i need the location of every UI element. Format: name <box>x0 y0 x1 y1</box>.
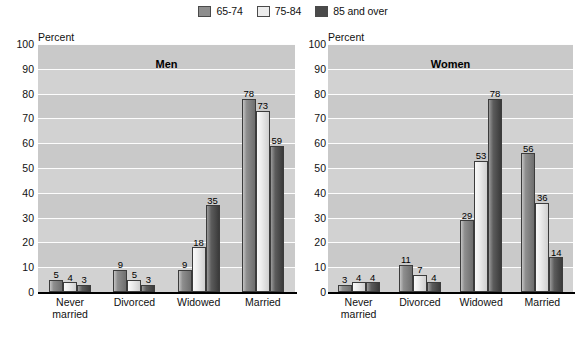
y-axis-tick: 70 <box>22 113 34 124</box>
y-axis-tick: 0 <box>320 287 326 298</box>
bar-value-label: 35 <box>207 196 218 206</box>
y-axis-tick: 60 <box>22 138 34 149</box>
bar[interactable]: 14 <box>549 257 563 292</box>
y-axis-tick: 30 <box>314 212 326 223</box>
bar[interactable]: 35 <box>206 205 220 292</box>
bar-value-label: 73 <box>258 101 269 111</box>
bar-value-label: 9 <box>118 260 123 270</box>
x-axis-category-label-line1: Widowed <box>167 296 231 308</box>
bar[interactable]: 4 <box>427 282 441 292</box>
legend-label-65-74: 65-74 <box>216 5 242 17</box>
y-axis-tick: 30 <box>22 212 34 223</box>
legend-swatch-75-84-icon <box>257 6 270 17</box>
bar-group: 1174 <box>389 44 450 292</box>
legend-item-65-74: 65-74 <box>198 5 242 17</box>
y-axis-tick: 10 <box>314 262 326 273</box>
bar[interactable]: 9 <box>178 270 192 292</box>
y-axis-tick: 50 <box>22 163 34 174</box>
bar-set: 1174 <box>389 44 450 292</box>
x-axis-line-men <box>38 292 297 294</box>
bar-group: 91835 <box>167 44 231 292</box>
x-axis-category-label-line2: married <box>328 308 389 320</box>
bar-value-label: 9 <box>182 260 187 270</box>
x-axis-category-label-line1: Married <box>231 296 295 308</box>
x-axis-category-label-line2: married <box>38 308 102 320</box>
bar-value-label: 7 <box>417 265 422 275</box>
x-axis-labels-men: NevermarriedDivorcedWidowedMarried <box>38 296 295 320</box>
bar-value-label: 5 <box>132 270 137 280</box>
plot-area-men: Men 54395391835787359 <box>38 44 295 292</box>
bar[interactable]: 59 <box>270 146 284 292</box>
legend-label-85-and-over: 85 and over <box>333 5 387 17</box>
panel-title-men: Men <box>38 58 295 70</box>
bar-value-label: 29 <box>462 211 473 221</box>
y-axis-tick: 80 <box>22 88 34 99</box>
x-axis-category-label: Nevermarried <box>328 296 389 320</box>
x-axis-category-label: Married <box>512 296 573 320</box>
x-axis-category-label-line1: Never <box>38 296 102 308</box>
bar-value-label: 4 <box>431 273 436 283</box>
y-axis-tick: 90 <box>314 64 326 75</box>
bar[interactable]: 4 <box>352 282 366 292</box>
bar-group: 344 <box>328 44 389 292</box>
bar[interactable]: 78 <box>488 99 502 292</box>
bar-value-label: 36 <box>537 193 548 203</box>
bar-set: 91835 <box>167 44 231 292</box>
bar[interactable]: 7 <box>413 275 427 292</box>
bar-set: 543 <box>38 44 102 292</box>
y-axis-tick: 20 <box>314 237 326 248</box>
y-axis-men: 1009080706050403020100 <box>8 44 34 292</box>
plot-wrap-women: 1009080706050403020100 Women 34411742953… <box>300 44 582 334</box>
y-axis-tick: 100 <box>308 39 326 50</box>
legend-label-75-84: 75-84 <box>275 5 301 17</box>
chart-panel-men: Percent 1009080706050403020100 Men 54395… <box>6 28 298 334</box>
chart-panel-women: Percent 1009080706050403020100 Women 344… <box>300 28 582 334</box>
bar-group: 787359 <box>231 44 295 292</box>
bar-value-label: 3 <box>146 275 151 285</box>
y-axis-tick: 70 <box>314 113 326 124</box>
bar-value-label: 11 <box>401 255 411 265</box>
bar[interactable]: 56 <box>521 153 535 292</box>
bar[interactable]: 3 <box>77 285 91 292</box>
bar[interactable]: 3 <box>338 285 352 292</box>
bar-set: 295378 <box>451 44 512 292</box>
bar[interactable]: 73 <box>256 111 270 292</box>
bar[interactable]: 5 <box>49 280 63 292</box>
x-axis-category-label: Widowed <box>167 296 231 320</box>
bar-set: 953 <box>102 44 166 292</box>
bar-value-label: 4 <box>356 273 361 283</box>
bar[interactable]: 36 <box>535 203 549 292</box>
bar-value-label: 56 <box>523 144 534 154</box>
bar-value-label: 18 <box>193 238 204 248</box>
bar[interactable]: 3 <box>141 285 155 292</box>
x-axis-category-label-line1: Never <box>328 296 389 308</box>
bar-value-label: 78 <box>244 89 255 99</box>
bar-value-label: 5 <box>53 270 58 280</box>
bar[interactable]: 18 <box>192 247 206 292</box>
x-axis-category-label: Divorced <box>102 296 166 320</box>
bar-value-label: 3 <box>81 275 86 285</box>
bar-set: 787359 <box>231 44 295 292</box>
y-axis-tick: 50 <box>314 163 326 174</box>
y-axis-tick: 90 <box>22 64 34 75</box>
plot-wrap-men: 1009080706050403020100 Men 5439539183578… <box>6 44 298 334</box>
bar[interactable]: 4 <box>63 282 77 292</box>
chart-legend: 65-74 75-84 85 and over <box>0 0 586 22</box>
bar-set: 344 <box>328 44 389 292</box>
bar[interactable]: 4 <box>366 282 380 292</box>
bar[interactable]: 53 <box>474 161 488 292</box>
bar-value-label: 53 <box>476 151 487 161</box>
bar[interactable]: 29 <box>460 220 474 292</box>
legend-item-75-84: 75-84 <box>257 5 301 17</box>
x-axis-labels-women: NevermarriedDivorcedWidowedMarried <box>328 296 573 320</box>
y-axis-title-men: Percent <box>38 31 74 43</box>
bar[interactable]: 9 <box>113 270 127 292</box>
bar[interactable]: 78 <box>242 99 256 292</box>
bar-set: 563614 <box>512 44 573 292</box>
bar-group: 295378 <box>451 44 512 292</box>
bar[interactable]: 11 <box>399 265 413 292</box>
bar[interactable]: 5 <box>127 280 141 292</box>
x-axis-category-label: Widowed <box>451 296 512 320</box>
y-axis-tick: 100 <box>16 39 34 50</box>
y-axis-tick: 0 <box>28 287 34 298</box>
